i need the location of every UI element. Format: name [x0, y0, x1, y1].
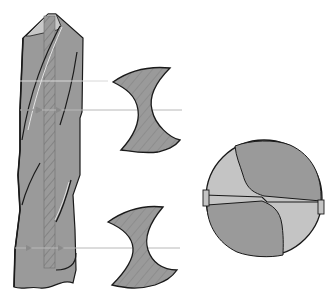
margin-left: [203, 190, 209, 206]
web-core-hatch: [44, 16, 55, 268]
margin-right: [318, 200, 324, 214]
cross-section-lower: [108, 207, 177, 288]
drill-diagram: [0, 0, 328, 305]
cutting-lip-lower: [207, 201, 283, 257]
drill-tip-end-view: [203, 140, 324, 257]
drill-side-view: [14, 14, 83, 288]
